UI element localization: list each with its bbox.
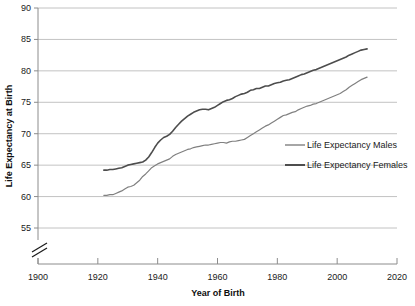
y-tick-label-65: 65 bbox=[21, 160, 31, 170]
x-tick-label-1980: 1980 bbox=[267, 272, 287, 282]
series-line-males bbox=[104, 77, 367, 195]
x-tick-label-1900: 1900 bbox=[28, 272, 48, 282]
y-tick-label-55: 55 bbox=[21, 223, 31, 233]
axes bbox=[32, 8, 397, 264]
legend-label-1: Life Expectancy Females bbox=[307, 160, 408, 170]
x-tick-label-2000: 2000 bbox=[327, 272, 347, 282]
legend-label-0: Life Expectancy Males bbox=[307, 140, 398, 150]
x-axis-ticks: 1900192019401960198020002020 bbox=[28, 258, 407, 282]
x-tick-label-1940: 1940 bbox=[148, 272, 168, 282]
life-expectancy-chart: 5560657075808590 19001920194019601980200… bbox=[0, 0, 415, 306]
y-tick-label-75: 75 bbox=[21, 97, 31, 107]
x-axis-title: Year of Birth bbox=[191, 288, 245, 298]
y-tick-label-70: 70 bbox=[21, 129, 31, 139]
y-axis-title: Life Expectancy at Birth bbox=[4, 85, 14, 188]
chart-canvas: 5560657075808590 19001920194019601980200… bbox=[0, 0, 415, 306]
series-line-females bbox=[104, 49, 367, 170]
x-tick-label-1960: 1960 bbox=[207, 272, 227, 282]
y-tick-label-90: 90 bbox=[21, 3, 31, 13]
x-tick-label-2020: 2020 bbox=[387, 272, 407, 282]
chart-legend: Life Expectancy MalesLife Expectancy Fem… bbox=[285, 140, 408, 170]
y-tick-label-80: 80 bbox=[21, 66, 31, 76]
axis-break-mark-lower bbox=[32, 248, 47, 257]
axis-break-mark-upper bbox=[32, 243, 47, 252]
x-tick-label-1920: 1920 bbox=[88, 272, 108, 282]
gridlines bbox=[38, 8, 397, 228]
y-tick-label-85: 85 bbox=[21, 34, 31, 44]
y-tick-label-60: 60 bbox=[21, 192, 31, 202]
y-axis-ticks: 5560657075808590 bbox=[21, 3, 38, 233]
